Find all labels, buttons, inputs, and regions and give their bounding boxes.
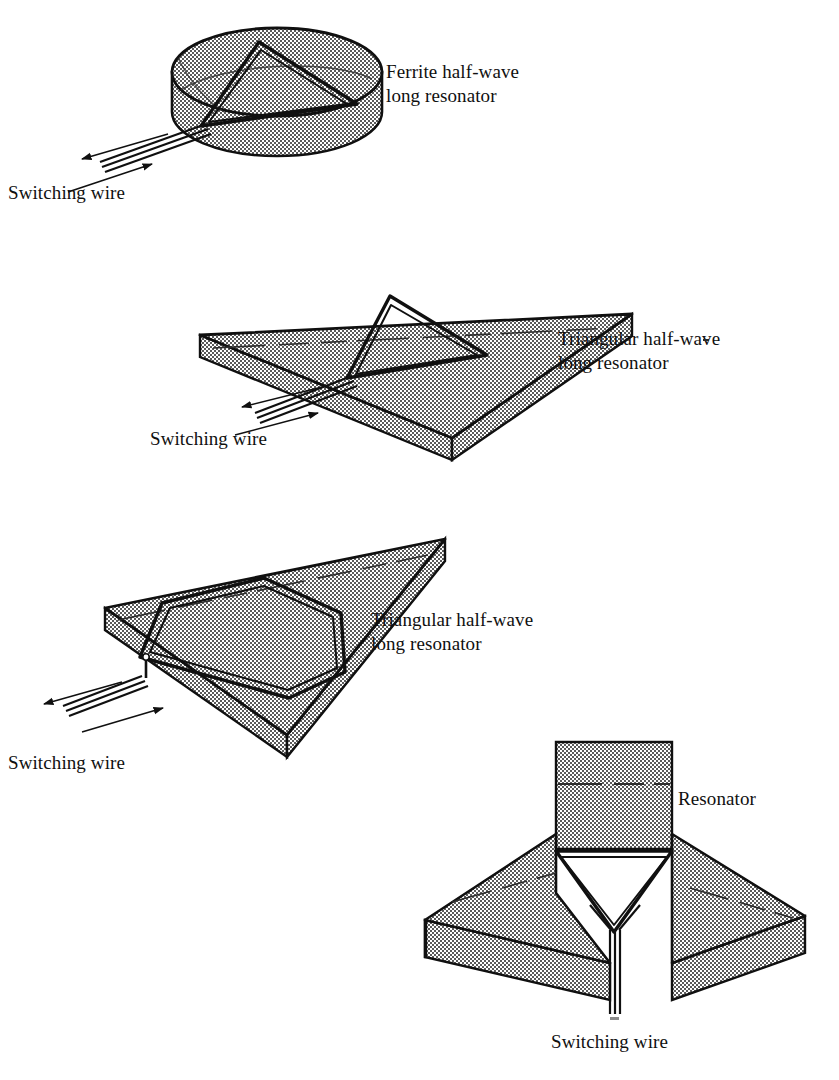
label-resonator: Resonator <box>678 787 756 811</box>
label-triangular-resonator-2-line1: Triangular half-wave <box>371 609 533 630</box>
scan-artifact-dash <box>703 339 709 341</box>
yj-switching-wire <box>610 930 620 1014</box>
prism3-switching-wire <box>63 676 148 716</box>
label-triangular-resonator-2: Triangular half-wavelong resonator <box>371 608 533 656</box>
label-switching-wire-4: Switching wire <box>551 1030 668 1054</box>
label-ferrite-resonator: Ferrite half-wavelong resonator <box>386 60 519 108</box>
label-ferrite-resonator-line2: long resonator <box>386 85 497 106</box>
label-triangular-resonator-1: Triangular half-wavelong resonator <box>558 327 720 375</box>
label-triangular-resonator-2-line2: long resonator <box>371 633 482 654</box>
prism3-wire-arrow-in <box>82 708 163 732</box>
prism3-feed-point <box>143 654 149 660</box>
label-switching-wire-2: Switching wire <box>150 427 267 451</box>
label-ferrite-resonator-line1: Ferrite half-wave <box>386 61 519 82</box>
disc-wire-arrow-out <box>82 134 168 159</box>
label-triangular-resonator-1-line1: Triangular half-wave <box>558 328 720 349</box>
figure-y-junction <box>425 742 805 1014</box>
yj-resonator-inner <box>561 857 667 925</box>
label-switching-wire-1: Switching wire <box>8 181 125 205</box>
yj-back-arm-face <box>556 742 672 849</box>
scan-artifact-speck <box>610 1017 619 1020</box>
figure-page: Ferrite half-wavelong resonator Switchin… <box>0 0 839 1080</box>
diagram-artboard <box>0 0 839 1080</box>
yj-left-arm-end-wall <box>425 920 426 957</box>
label-switching-wire-3: Switching wire <box>8 751 125 775</box>
label-triangular-resonator-1-line2: long resonator <box>558 352 669 373</box>
figure-ferrite-disc <box>68 28 382 192</box>
